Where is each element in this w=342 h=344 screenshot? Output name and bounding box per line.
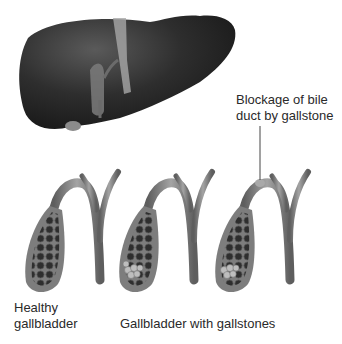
illustration xyxy=(0,0,342,344)
healthy-gallbladder xyxy=(25,172,118,292)
gallstones-label: Gallbladder with gallstones xyxy=(120,316,340,332)
healthy-gallbladder-label: Healthy gallbladder xyxy=(14,300,104,332)
gallbladder-blocked-duct xyxy=(215,126,308,292)
blockage-label: Blockage of bile duct by gallstone xyxy=(236,92,342,124)
blocking-gallstone-icon xyxy=(255,179,265,187)
gallbladder-with-gallstones xyxy=(119,172,212,292)
liver-icon xyxy=(19,16,235,131)
